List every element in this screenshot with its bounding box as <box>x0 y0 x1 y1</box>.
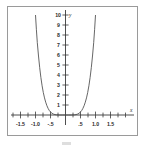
x-tick-label: -1.0 <box>31 121 40 127</box>
x-tick-label: -.5 <box>47 121 53 127</box>
y-tick-label: 8 <box>57 32 60 38</box>
y-tick-label: 3 <box>57 82 60 88</box>
y-axis-label: y <box>68 12 72 18</box>
y-tick-label: 5 <box>57 62 60 68</box>
y-tick-label: 9 <box>57 22 60 28</box>
x-tick-label: -1.5 <box>16 121 25 127</box>
y-tick-label: 7 <box>57 42 60 48</box>
plot-canvas: -1.5 -1.0 -.5 .5 1.0 1.5 1 2 3 4 5 6 7 8… <box>8 7 137 135</box>
y-tick-label: 10 <box>55 12 61 18</box>
y-tick-label: 2 <box>57 92 60 98</box>
x-tick-label: 1.5 <box>107 121 114 127</box>
y-tick-label: 4 <box>57 72 60 78</box>
scan-artifact <box>62 142 71 145</box>
y-tick-label: 1 <box>57 102 60 108</box>
x-tick-label: .5 <box>78 121 82 127</box>
x-tick-label: 1.0 <box>92 121 99 127</box>
figure-frame: -1.5 -1.0 -.5 .5 1.0 1.5 1 2 3 4 5 6 7 8… <box>7 6 138 136</box>
x-axis-label: x <box>129 107 133 113</box>
y-tick-label: 6 <box>57 52 60 58</box>
